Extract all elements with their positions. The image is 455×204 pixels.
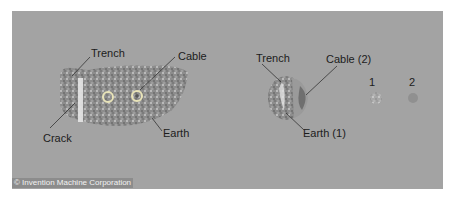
trench-band [78,78,83,122]
label-cable-2: Cable (2) [326,53,371,65]
label-item-2: 2 [409,76,415,88]
label-item-1: 1 [369,76,375,88]
leader-trench-2 [262,64,281,82]
leader-earth [152,118,162,131]
diagram-graphics [0,0,455,204]
label-cable: Cable [178,50,207,62]
label-crack: Crack [43,132,72,144]
credit-text: © Invention Machine Corporation [12,178,133,188]
leader-cable-2 [306,66,337,95]
label-earth: Earth [163,127,189,139]
cross-section [268,76,308,120]
item-2-disc [408,93,418,103]
label-trench: Trench [91,47,125,59]
label-trench-2: Trench [256,52,290,64]
label-earth-2: Earth (1) [303,127,346,139]
